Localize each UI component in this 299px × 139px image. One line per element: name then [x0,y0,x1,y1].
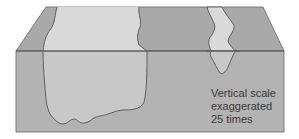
caption-line-3: 25 times [211,113,276,126]
caption-line-2: exaggerated [211,100,276,113]
left-plume-top [43,7,147,51]
block-diagram: Vertical scale exaggerated 25 times [0,0,299,139]
scale-caption: Vertical scale exaggerated 25 times [211,87,276,126]
caption-line-1: Vertical scale [211,87,276,100]
